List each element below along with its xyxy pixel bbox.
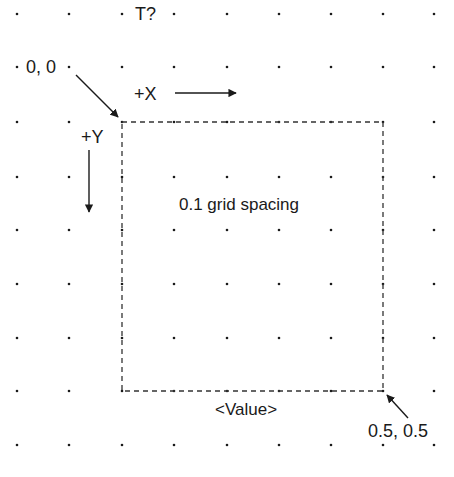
grid-dot	[330, 337, 333, 340]
grid-dot	[226, 337, 229, 340]
grid-spacing-label: 0.1 grid spacing	[179, 196, 299, 213]
grid-dot	[226, 283, 229, 286]
grid-dot	[278, 229, 281, 232]
grid-dot	[278, 444, 281, 447]
grid-dot	[278, 337, 281, 340]
y-axis-label: +Y	[81, 128, 104, 146]
grid-dot	[16, 390, 19, 393]
grid-dot	[433, 176, 436, 179]
grid-dot	[382, 390, 385, 393]
grid-dot	[226, 176, 229, 179]
grid-dot	[382, 66, 385, 69]
grid-dot	[433, 13, 436, 16]
grid-dot	[330, 229, 333, 232]
grid-dot	[226, 13, 229, 16]
grid-dot	[16, 121, 19, 124]
grid-dot	[278, 283, 281, 286]
grid-dot	[278, 66, 281, 69]
grid-dot	[330, 390, 333, 393]
grid-dot	[68, 444, 71, 447]
grid-dot	[68, 13, 71, 16]
grid-dot	[173, 337, 176, 340]
grid-dot	[16, 444, 19, 447]
grid-dot	[68, 66, 71, 69]
title-label: T?	[135, 5, 156, 23]
x-axis-label: +X	[134, 85, 157, 103]
grid-dot	[16, 66, 19, 69]
corner-arrow-icon	[387, 395, 408, 418]
grid-dot	[330, 444, 333, 447]
grid-dot	[433, 121, 436, 124]
grid-dot	[121, 283, 124, 286]
grid-dot	[173, 229, 176, 232]
grid-dot	[173, 444, 176, 447]
grid-dot	[226, 66, 229, 69]
grid-dot	[226, 444, 229, 447]
grid-dot	[173, 66, 176, 69]
corner-label: 0.5, 0.5	[368, 422, 428, 440]
grid-dot	[330, 66, 333, 69]
origin-label: 0, 0	[26, 58, 56, 76]
grid-dot	[433, 283, 436, 286]
grid-dot	[121, 229, 124, 232]
grid-dot	[16, 229, 19, 232]
grid-dot	[121, 444, 124, 447]
grid-dot	[433, 337, 436, 340]
grid-dot	[68, 337, 71, 340]
value-region-box	[122, 122, 383, 391]
grid-dot	[433, 444, 436, 447]
grid-dot	[382, 444, 385, 447]
grid-dot	[433, 229, 436, 232]
grid-dot	[121, 66, 124, 69]
grid-dot	[16, 13, 19, 16]
grid-dot	[121, 176, 124, 179]
grid-dot	[330, 13, 333, 16]
grid-dot	[16, 337, 19, 340]
origin-arrow-icon	[76, 75, 118, 117]
grid-dot	[121, 337, 124, 340]
grid-dot	[121, 390, 124, 393]
grid-dot	[173, 13, 176, 16]
grid-dot	[16, 176, 19, 179]
grid-dot	[382, 13, 385, 16]
grid-dot	[68, 283, 71, 286]
grid-dot	[433, 390, 436, 393]
grid-dot	[68, 176, 71, 179]
grid-dot	[16, 283, 19, 286]
grid-dot	[173, 121, 176, 124]
grid-dot	[68, 229, 71, 232]
grid-dot	[226, 229, 229, 232]
grid-dot	[433, 66, 436, 69]
grid-dot	[330, 176, 333, 179]
value-label: <Value>	[215, 401, 277, 418]
grid-dot	[330, 283, 333, 286]
grid-dot	[226, 121, 229, 124]
grid-dot	[68, 121, 71, 124]
grid-dot	[278, 13, 281, 16]
grid-dot	[121, 13, 124, 16]
grid-dot	[68, 390, 71, 393]
grid-dot	[278, 176, 281, 179]
grid-dot	[173, 283, 176, 286]
grid-dot	[173, 176, 176, 179]
